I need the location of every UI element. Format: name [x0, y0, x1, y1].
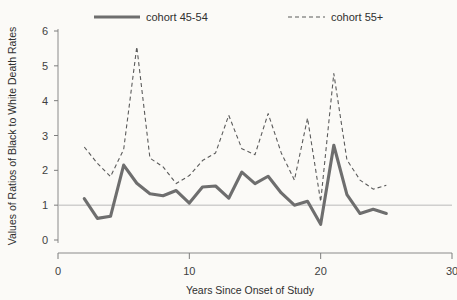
x-tick-label: 10 — [183, 265, 195, 277]
y-tick-label: 5 — [42, 60, 48, 72]
legend-label-cohort-55-plus: cohort 55+ — [331, 11, 383, 23]
y-axis-title: Values of Ratios of Black to White Death… — [6, 27, 18, 246]
x-tick-label: 20 — [315, 265, 327, 277]
x-axis-title: Years Since Onset of Study — [186, 284, 315, 296]
y-tick-label: 2 — [42, 164, 48, 176]
x-tick-label: 0 — [55, 265, 61, 277]
legend-label-cohort-45-54: cohort 45-54 — [146, 11, 208, 23]
y-tick-label: 6 — [42, 25, 48, 37]
y-tick-label: 0 — [42, 234, 48, 246]
y-tick-label: 1 — [42, 199, 48, 211]
y-tick-label: 3 — [42, 130, 48, 142]
x-tick-label: 30 — [446, 265, 457, 277]
line-chart: cohort 45-54 cohort 55+ 0123456 Values o… — [0, 0, 457, 300]
chart-background — [0, 0, 457, 300]
chart-figure: cohort 45-54 cohort 55+ 0123456 Values o… — [0, 0, 457, 300]
y-tick-label: 4 — [42, 95, 48, 107]
